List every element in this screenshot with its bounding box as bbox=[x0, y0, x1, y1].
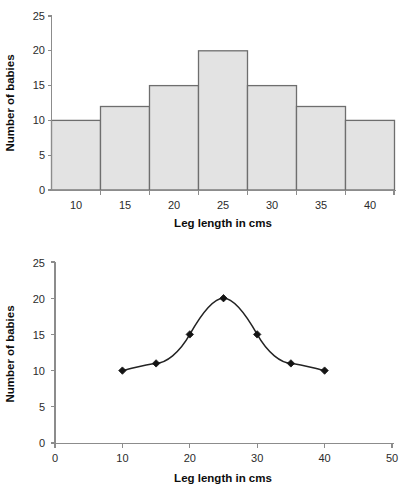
histogram-x-tick-label-25: 25 bbox=[217, 199, 229, 211]
histogram-bar-40 bbox=[346, 120, 395, 190]
line-chart-x-tick-label-40: 40 bbox=[318, 452, 330, 464]
line-chart-x-tick-label-50: 50 bbox=[386, 452, 398, 464]
histogram-y-tick-label-10: 10 bbox=[33, 114, 45, 126]
line-chart-marker-20 bbox=[186, 331, 193, 338]
line-chart-svg: Number of babies 0 5 10 15 20 25 bbox=[0, 232, 411, 495]
line-chart-y-tick-label-0: 0 bbox=[39, 437, 45, 449]
histogram-bar-20 bbox=[150, 86, 199, 190]
line-chart-marker-15 bbox=[152, 360, 159, 367]
histogram-y-tick-label-0: 0 bbox=[39, 184, 45, 196]
line-chart-figure: Number of babies 0 5 10 15 20 25 bbox=[0, 232, 411, 495]
histogram-x-axis-title: Leg length in cms bbox=[174, 217, 272, 229]
line-chart-y-tick-label-5: 5 bbox=[39, 401, 45, 413]
line-chart-series-path bbox=[122, 298, 324, 370]
histogram-x-tick-label-15: 15 bbox=[119, 199, 131, 211]
histogram-x-tick-label-10: 10 bbox=[70, 199, 82, 211]
line-chart-x-tick-label-30: 30 bbox=[251, 452, 263, 464]
line-chart-y-tick-label-25: 25 bbox=[33, 257, 45, 269]
histogram-y-axis-title: Number of babies bbox=[4, 54, 16, 151]
histogram-x-tick-label-40: 40 bbox=[364, 199, 376, 211]
histogram-bar-15 bbox=[101, 107, 150, 191]
histogram-svg: Number of babies 0 5 10 15 20 25 bbox=[0, 0, 411, 232]
line-chart-marker-25 bbox=[220, 295, 227, 302]
line-chart-x-tick-label-20: 20 bbox=[184, 452, 196, 464]
histogram-bar-30 bbox=[248, 86, 297, 190]
line-chart-marker-35 bbox=[287, 360, 294, 367]
line-chart-y-tick-label-20: 20 bbox=[33, 293, 45, 305]
line-chart-marker-10 bbox=[119, 367, 126, 374]
histogram-y-tick-label-25: 25 bbox=[33, 10, 45, 22]
histogram-x-tick-label-30: 30 bbox=[266, 199, 278, 211]
line-chart-marker-30 bbox=[254, 331, 261, 338]
line-chart-y-tick-label-10: 10 bbox=[33, 365, 45, 377]
histogram-x-tick-label-35: 35 bbox=[315, 199, 327, 211]
histogram-figure: Number of babies 0 5 10 15 20 25 bbox=[0, 0, 411, 232]
histogram-bar-35 bbox=[297, 107, 346, 191]
line-chart-marker-40 bbox=[321, 367, 328, 374]
histogram-y-tick-label-20: 20 bbox=[33, 44, 45, 56]
line-chart-y-tick-label-15: 15 bbox=[33, 329, 45, 341]
line-chart-x-tick-label-10: 10 bbox=[116, 452, 128, 464]
line-chart-x-tick-label-0: 0 bbox=[52, 452, 58, 464]
histogram-y-tick-label-15: 15 bbox=[33, 79, 45, 91]
histogram-y-tick-label-5: 5 bbox=[39, 149, 45, 161]
line-chart-y-axis-title: Number of babies bbox=[4, 305, 16, 402]
line-chart-x-axis-title: Leg length in cms bbox=[174, 472, 272, 484]
histogram-x-tick-label-20: 20 bbox=[168, 199, 180, 211]
histogram-bar-25 bbox=[199, 51, 248, 190]
histogram-bar-10 bbox=[52, 120, 101, 190]
